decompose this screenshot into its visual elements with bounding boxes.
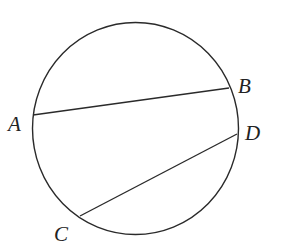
label-b: B — [238, 74, 251, 98]
label-d: D — [244, 121, 260, 145]
circle-chords-diagram: A B C D — [0, 0, 281, 248]
label-a: A — [6, 112, 21, 136]
chord-ab — [33, 88, 229, 115]
circle — [33, 23, 239, 235]
label-c: C — [54, 222, 69, 246]
chord-cd — [80, 134, 237, 216]
